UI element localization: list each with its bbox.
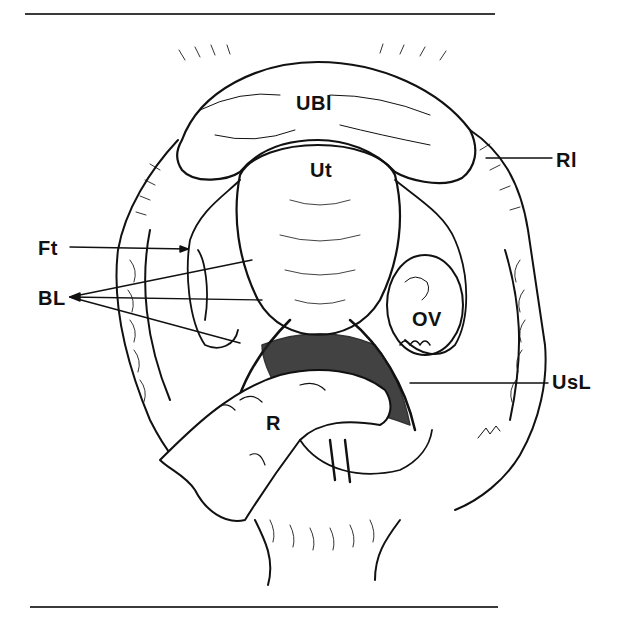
lower-structures <box>300 430 432 482</box>
label-urinary-bladder: UBl <box>296 93 332 113</box>
ovary <box>387 255 463 355</box>
label-ovary: OV <box>412 309 442 329</box>
label-uterosacral-ligament: UsL <box>552 372 591 392</box>
label-fallopian-tube: Ft <box>38 238 58 258</box>
label-broad-ligament: BL <box>38 288 66 308</box>
rectum <box>160 370 390 521</box>
artist-signature <box>478 426 500 438</box>
label-rectum: R <box>266 413 281 433</box>
retractor <box>255 520 400 585</box>
label-round-ligament: Rl <box>556 150 577 170</box>
label-uterus: Ut <box>310 160 332 180</box>
